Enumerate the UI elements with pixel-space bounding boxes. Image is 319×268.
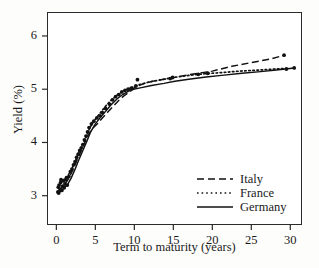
legend-key-dotted-icon [196, 187, 234, 199]
x-axis-ticks [56, 225, 290, 230]
y-tick-label: 3 [15, 188, 37, 203]
y-axis-ticks [42, 36, 47, 196]
legend-label-germany: Germany [240, 200, 287, 214]
chart-figure: 3456 051015202530 Term to maturity (year… [0, 0, 319, 268]
chart-canvas [0, 0, 319, 268]
legend-item-italy: Italy [196, 172, 300, 186]
legend-key-dashed-icon [196, 173, 234, 185]
legend-label-italy: Italy [240, 172, 263, 186]
x-axis-title: Term to maturity (years) [47, 240, 302, 255]
legend-key-solid-icon [196, 201, 234, 213]
legend-item-germany: Germany [196, 200, 300, 214]
y-tick-label: 6 [15, 28, 37, 43]
y-axis-title: Yield (%) [11, 65, 26, 155]
legend-item-france: France [196, 186, 300, 200]
legend-label-france: France [240, 186, 274, 200]
chart-legend: Italy France Germany [196, 172, 300, 214]
